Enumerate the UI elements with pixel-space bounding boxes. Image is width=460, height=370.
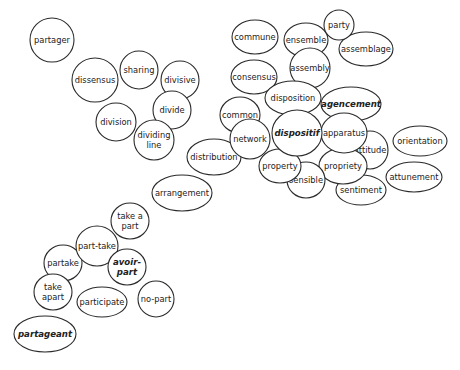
- bubble-label: sharing: [124, 65, 155, 75]
- bubble-label: ensemble: [286, 35, 327, 45]
- bubble-label: part: [121, 221, 139, 231]
- bubble-label: network: [233, 134, 267, 144]
- bubble-label: arrangement: [155, 188, 210, 198]
- bubble-label: assemblage: [341, 44, 391, 54]
- bubble-label: consensus: [232, 72, 276, 82]
- bubble-label: part-take: [78, 241, 116, 251]
- bubble-label: divide: [159, 105, 184, 115]
- bubble-label: party: [328, 20, 350, 30]
- bubble-label: partageant: [17, 329, 73, 339]
- word-bubble-diagram: partagerdissensussharingdivisivedividedi…: [0, 0, 460, 370]
- bubble-no-part: no-part: [138, 281, 174, 317]
- bubble-label: property: [262, 161, 298, 171]
- bubble-orientation: orientation: [393, 126, 447, 156]
- bubble-label: participate: [80, 297, 125, 307]
- bubble-label: take a: [117, 211, 143, 221]
- bubble-take-apart: takeapart: [34, 274, 72, 310]
- bubble-label: propriety: [324, 161, 362, 171]
- bubble-commune: commune: [232, 20, 278, 54]
- bubble-dissensus: dissensus: [72, 58, 118, 102]
- bubble-label: take: [44, 282, 62, 292]
- bubble-label: apart: [42, 292, 65, 302]
- bubble-label: dispositif: [274, 128, 320, 138]
- bubble-label: part: [116, 267, 138, 277]
- bubble-network: network: [230, 119, 270, 159]
- bubble-label: division: [100, 117, 132, 127]
- bubble-label: avoir-: [113, 257, 141, 267]
- bubble-label: apparatus: [323, 128, 365, 138]
- bubble-label: divisive: [164, 75, 195, 85]
- bubble-partager: partager: [30, 18, 74, 62]
- bubble-label: common: [222, 110, 258, 120]
- bubble-label: attunement: [390, 172, 440, 182]
- bubble-attunement: attunement: [386, 162, 442, 192]
- bubble-avoir-part: avoir-part: [108, 249, 146, 285]
- bubble-label: dissensus: [75, 75, 115, 85]
- bubble-partageant: partageant: [14, 316, 76, 352]
- bubble-take-a-part: take apart: [111, 203, 149, 239]
- bubble-label: dividing: [138, 130, 171, 140]
- bubble-dispositif: dispositif: [272, 110, 322, 156]
- bubble-label: commune: [234, 32, 275, 42]
- bubble-label: sentiment: [340, 185, 383, 195]
- bubble-party: party: [324, 10, 354, 40]
- bubble-label: disposition: [271, 93, 316, 103]
- bubble-label: line: [147, 140, 162, 150]
- bubble-participate: participate: [77, 287, 127, 317]
- bubble-dividing-line: dividingline: [134, 120, 174, 160]
- bubble-label: orientation: [397, 136, 442, 146]
- bubble-label: partake: [47, 258, 79, 268]
- bubble-label: partager: [34, 35, 70, 45]
- bubble-label: agencement: [321, 99, 382, 109]
- bubble-apparatus: apparatus: [321, 113, 367, 153]
- bubble-sharing: sharing: [120, 51, 158, 89]
- bubble-division: division: [96, 103, 136, 141]
- bubble-label: assembly: [290, 63, 329, 73]
- bubble-label: distribution: [190, 152, 237, 162]
- bubble-label: no-part: [141, 294, 172, 304]
- bubble-arrangement: arrangement: [152, 175, 212, 211]
